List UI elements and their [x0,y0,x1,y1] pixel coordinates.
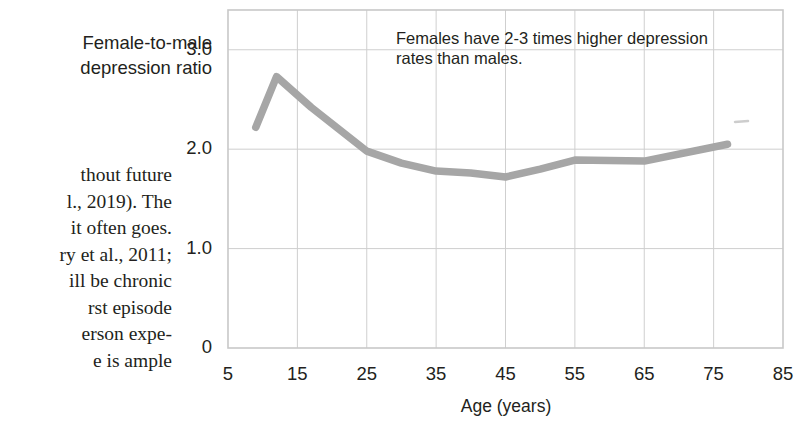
x-axis-tick-label: 65 [624,363,664,385]
y-axis-tick-label: 3.0 [156,38,212,60]
figure-page: Female-to-male depression ratio thout fu… [0,0,794,431]
y-axis-tick-label: 1.0 [156,237,212,259]
line-chart: 01.02.03.0 51525354555657585 Age (years)… [0,0,794,431]
x-axis-tick-label: 45 [486,363,526,385]
x-axis-tick-label: 85 [763,363,794,385]
x-axis-tick-label: 5 [208,363,248,385]
x-axis-label: Age (years) [228,396,784,417]
chart-annotation-line-1: Females have 2-3 times higher depression [396,28,726,48]
chart-annotation-line-2: rates than males. [396,48,726,68]
print-artifact-mark [735,121,748,122]
x-axis-tick-label: 75 [694,363,734,385]
y-axis-tick-label: 2.0 [156,137,212,159]
x-axis-tick-label: 55 [555,363,595,385]
x-axis-tick-label: 35 [416,363,456,385]
chart-annotation: Females have 2-3 times higher depression… [396,28,726,68]
y-axis-tick-label: 0 [156,336,212,358]
x-axis-tick-label: 15 [277,363,317,385]
x-axis-tick-label: 25 [347,363,387,385]
